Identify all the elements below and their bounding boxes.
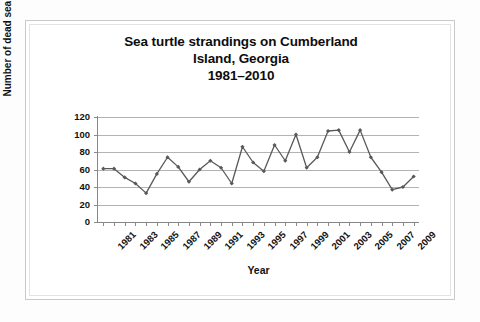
x-axis-tick	[349, 222, 350, 226]
x-axis-tick	[275, 222, 276, 226]
x-axis-tick	[178, 222, 179, 226]
y-axis-tick-label: 80	[64, 147, 90, 157]
x-axis-tick	[253, 222, 254, 226]
y-axis-tick-label: 0	[64, 217, 90, 227]
page-border: Sea turtle strandings on Cumberland Isla…	[25, 20, 455, 300]
x-axis-tick	[135, 222, 136, 226]
data-point-marker	[337, 128, 341, 132]
x-axis-tick	[221, 222, 222, 226]
x-axis-tick	[371, 222, 372, 226]
x-axis-tick	[242, 222, 243, 226]
x-axis-tick	[414, 222, 415, 226]
x-axis-tick	[146, 222, 147, 226]
x-axis-tick	[392, 222, 393, 226]
x-axis-tick	[125, 222, 126, 226]
x-axis-tick	[157, 222, 158, 226]
x-axis-tick	[296, 222, 297, 226]
data-point-marker	[326, 129, 330, 133]
data-point-marker	[294, 132, 298, 136]
x-axis-tick	[339, 222, 340, 226]
x-axis-tick	[403, 222, 404, 226]
series-markers	[101, 128, 416, 195]
x-axis-tick	[232, 222, 233, 226]
chart-title-line-3: 1981–2010	[66, 67, 416, 84]
x-axis-tick	[382, 222, 383, 226]
y-axis-tick-label: 60	[64, 165, 90, 175]
x-axis-tick	[103, 222, 104, 226]
x-axis-tick	[307, 222, 308, 226]
x-axis-title: Year	[98, 264, 419, 276]
y-axis-tick-label: 20	[64, 200, 90, 210]
y-axis-tick-label: 120	[64, 112, 90, 122]
x-axis-tick	[317, 222, 318, 226]
x-axis-tick	[200, 222, 201, 226]
x-axis-tick	[328, 222, 329, 226]
plot-area	[98, 117, 419, 222]
screenshot-canvas: Sea turtle strandings on Cumberland Isla…	[0, 0, 480, 322]
x-axis-tick	[168, 222, 169, 226]
y-axis-tick-label: 100	[64, 130, 90, 140]
series-polyline	[103, 130, 413, 193]
x-axis-tick	[189, 222, 190, 226]
x-axis-tick	[264, 222, 265, 226]
y-axis-tick-label: 40	[64, 182, 90, 192]
data-point-marker	[347, 150, 351, 154]
x-axis-tick	[114, 222, 115, 226]
x-axis-tick	[360, 222, 361, 226]
x-axis-tick	[285, 222, 286, 226]
chart-title: Sea turtle strandings on Cumberland Isla…	[66, 33, 416, 84]
chart-title-line-1: Sea turtle strandings on Cumberland	[66, 33, 416, 50]
data-series-line	[98, 117, 419, 222]
data-point-marker	[101, 167, 105, 171]
y-axis-title: Number of dead sea turtles	[2, 0, 13, 107]
data-point-marker	[358, 128, 362, 132]
x-axis-tick	[210, 222, 211, 226]
chart-title-line-2: Island, Georgia	[66, 50, 416, 67]
